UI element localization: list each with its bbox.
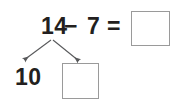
math-worksheet-problem: 14 − 7 = 10 [0,0,179,101]
decomposition-part-one: 10 [15,66,42,89]
minus-operator: − [64,15,77,38]
answer-input-box[interactable] [131,11,170,46]
branch-arrow-left [24,40,51,60]
equals-operator: = [107,15,120,38]
decomposition-part-two-input-box[interactable] [62,63,99,99]
subtrahend-number: 7 [87,15,100,38]
branch-arrow-right [53,40,79,61]
